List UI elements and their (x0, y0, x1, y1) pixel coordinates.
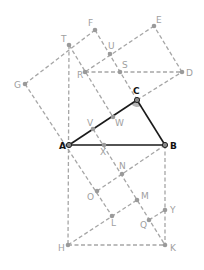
label-s: S (122, 60, 128, 70)
label-l: L (111, 218, 116, 228)
dashed-line-gf (25, 30, 95, 84)
point-c (134, 97, 139, 102)
dashed-line-fc (95, 30, 137, 100)
point-y (163, 208, 168, 213)
point-a (66, 142, 71, 147)
point-b (162, 142, 167, 147)
label-f: F (88, 18, 93, 28)
label-d: D (186, 68, 193, 78)
point-k (163, 243, 168, 248)
dashed-line-de (154, 26, 182, 72)
label-t: T (60, 34, 67, 44)
point-q (147, 218, 152, 223)
label-b: B (170, 141, 177, 151)
label-n: N (119, 161, 126, 171)
point-n (120, 172, 125, 177)
point-g (23, 82, 28, 87)
label-v: V (87, 118, 94, 128)
label-g: G (14, 80, 21, 90)
point-s (118, 70, 123, 75)
label-e: E (156, 15, 162, 25)
point-o (95, 189, 100, 194)
side-ca (69, 100, 137, 145)
label-o: O (87, 192, 94, 202)
label-m: M (141, 191, 149, 201)
dashed-line-qy (149, 210, 165, 220)
points (23, 24, 185, 248)
label-r: R (77, 70, 83, 80)
label-q: Q (140, 220, 147, 230)
label-h: H (58, 243, 65, 253)
label-x: X (100, 147, 106, 157)
label-w: W (115, 118, 124, 128)
point-t (67, 43, 72, 48)
point-r (83, 70, 88, 75)
point-m (135, 198, 140, 203)
point-d (180, 70, 185, 75)
dashed-line-hm (68, 200, 137, 245)
dashed-line-er (85, 26, 154, 72)
point-h (66, 243, 71, 248)
label-c: C (133, 86, 140, 96)
label-k: K (170, 243, 177, 253)
side-bc (137, 100, 165, 145)
label-y: Y (169, 205, 176, 215)
point-f (93, 28, 98, 33)
point-labels: ABCDEFGTUSRWVXNOMLQYHK (14, 15, 193, 253)
point-u (108, 52, 113, 57)
geometry-diagram: ABCDEFGTUSRWVXNOMLQYHK (0, 0, 204, 270)
label-u: U (108, 41, 115, 51)
label-a: A (59, 141, 66, 151)
dashed-line-tw (69, 45, 113, 117)
dashed-line-cd (137, 72, 182, 100)
